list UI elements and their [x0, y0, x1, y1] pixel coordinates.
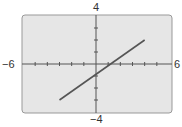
- graph-screen: [0, 0, 182, 127]
- y-min-label: −4: [90, 114, 103, 125]
- y-max-label: 4: [93, 2, 99, 13]
- x-max-label: 6: [174, 59, 180, 70]
- x-min-label: −6: [2, 59, 15, 70]
